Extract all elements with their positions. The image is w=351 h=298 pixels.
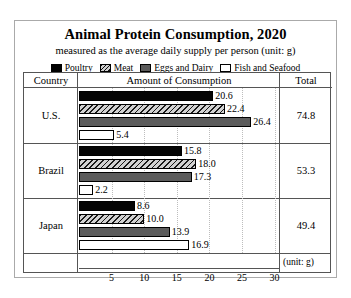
bar-label-brazil-fish-and-seafood: 2.2 [95,185,108,195]
bar-label-us-fish-and-seafood: 5.4 [116,130,129,140]
bar-label-japan-fish-and-seafood: 16.9 [191,240,209,250]
total-cell-us: 74.8 [280,88,332,143]
axis-unit-label: (unit: g) [283,257,314,267]
x-tick-30: 30 [270,272,280,283]
x-tick-15: 15 [172,272,182,283]
country-cell-japan: Japan [24,198,78,253]
bar-group-us: 20.6 22.4 26.4 5.4 [79,88,280,143]
bar-us-meat [79,104,225,114]
x-tick-10: 10 [139,272,149,283]
bar-label-us-poultry: 20.6 [215,91,233,101]
bar-brazil-fish-and-seafood [79,185,93,195]
bar-label-brazil-poultry: 15.8 [184,146,202,156]
x-tick-25: 25 [237,272,247,283]
consumption-table: Country Amount of Consumption Total U.S.… [23,72,331,273]
poultry-swatch-icon [51,64,62,72]
bar-japan-eggs-and-dairy [79,227,170,237]
bar-label-japan-poultry: 8.6 [137,201,150,211]
fish-and-seafood-swatch-icon [220,64,231,72]
total-cell-japan: 49.4 [280,198,332,253]
bar-label-us-eggs-and-dairy: 26.4 [253,117,271,127]
bar-us-poultry [79,91,213,101]
bar-group-brazil: 15.8 18.0 17.3 2.2 [79,143,280,198]
bar-label-brazil-eggs-and-dairy: 17.3 [194,172,212,182]
bar-group-japan: 8.6 10.0 13.9 16.9 [79,198,280,253]
header-total: Total [280,73,332,88]
bar-brazil-meat [79,159,196,169]
bar-brazil-poultry [79,146,182,156]
country-cell-brazil: Brazil [24,143,78,198]
bar-brazil-eggs-and-dairy [79,172,192,182]
total-cell-brazil: 53.3 [280,143,332,198]
bar-label-japan-eggs-and-dairy: 13.9 [172,227,190,237]
bar-us-fish-and-seafood [79,130,114,140]
chart-frame: Animal Protein Consumption, 2020 measure… [14,20,337,278]
meat-swatch-icon [100,64,111,72]
header-amount: Amount of Consumption [78,73,280,88]
x-tick-5: 5 [109,272,114,283]
bar-japan-poultry [79,201,135,211]
bar-us-eggs-and-dairy [79,117,251,127]
chart-title: Animal Protein Consumption, 2020 [15,26,336,43]
chart-subtitle: measured as the average daily supply per… [15,45,336,56]
country-cell-us: U.S. [24,88,78,143]
bar-label-brazil-meat: 18.0 [198,159,216,169]
x-axis: 5 10 15 20 25 30 [79,268,280,288]
header-country: Country [24,73,78,88]
eggs-and-dairy-swatch-icon [140,64,151,72]
bar-japan-fish-and-seafood [79,240,189,250]
bar-plot-area: 20.6 22.4 26.4 5.4 15.8 18.0 17.3 2.2 [79,88,280,273]
bar-label-japan-meat: 10.0 [146,214,164,224]
bar-japan-meat [79,214,144,224]
bar-label-us-meat: 22.4 [227,104,245,114]
x-tick-20: 20 [204,272,214,283]
